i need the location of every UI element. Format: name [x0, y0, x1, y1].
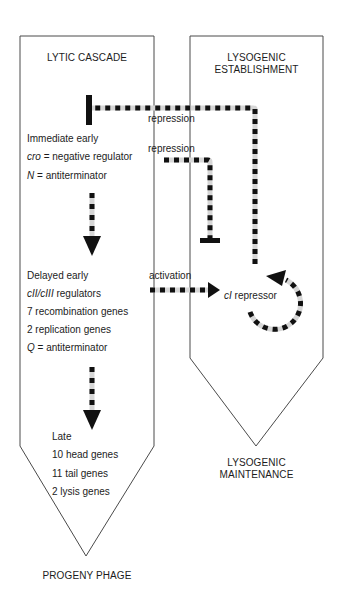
lysogenic-establishment-title-line2: ESTABLISHMENT [190, 64, 323, 76]
repression-arrow-cro-to-cI [164, 160, 220, 243]
gene-description: regulators [54, 288, 101, 299]
gene-name: cII/cIII [27, 288, 54, 299]
delayed-early-heading: Delayed early [27, 270, 88, 282]
cascade-arrow-delayed-to-late [83, 367, 101, 430]
cII-cIII-line: cII/cIII regulators [27, 288, 101, 300]
gene-description: = negative regulator [41, 151, 132, 162]
tail-genes-line: 11 tail genes [52, 468, 108, 480]
repression-label-2: repression [148, 143, 195, 155]
progeny-phage-label: PROGENY PHAGE [20, 570, 154, 582]
lysogenic-maintenance-label-line1: LYSOGENIC [190, 457, 323, 469]
cro-line: cro = negative regulator [27, 151, 132, 163]
gene-description: repressor [232, 290, 277, 301]
repression-label-1: repression [148, 113, 195, 125]
gene-description: = antiterminator [34, 170, 107, 181]
lysis-genes-line: 2 lysis genes [52, 486, 110, 498]
cI-repressor-label: cI repressor [224, 290, 277, 302]
gene-name: Q [27, 342, 35, 353]
inhibition-bar-icon [200, 238, 220, 243]
lysogenic-establishment-title-line1: LYSOGENIC [190, 52, 323, 64]
arrowhead-left-icon [266, 270, 286, 286]
activation-arrow-cII-to-cI [150, 282, 220, 298]
diagram-canvas [0, 0, 340, 602]
Q-line: Q = antiterminator [27, 342, 107, 354]
recombination-genes-line: 7 recombination genes [27, 306, 128, 318]
lytic-cascade-title: LYTIC CASCADE [20, 52, 154, 64]
arrowhead-right-icon [208, 282, 220, 298]
inhibition-bar-icon [86, 95, 92, 125]
replication-genes-line: 2 replication genes [27, 324, 111, 336]
lysogenic-maintenance-label-line2: MAINTENANCE [190, 469, 323, 481]
arrowhead-down-icon [83, 236, 101, 256]
cascade-arrow-immediate-to-delayed [83, 193, 101, 256]
gene-description: = antiterminator [35, 342, 108, 353]
arrowhead-down-icon [83, 410, 101, 430]
immediate-early-heading: Immediate early [27, 133, 98, 145]
activation-label: activation [149, 270, 191, 282]
N-line: N = antiterminator [27, 170, 107, 182]
late-heading: Late [52, 431, 71, 443]
gene-name: cI [224, 290, 232, 301]
gene-name: cro [27, 151, 41, 162]
head-genes-line: 10 head genes [52, 449, 118, 461]
